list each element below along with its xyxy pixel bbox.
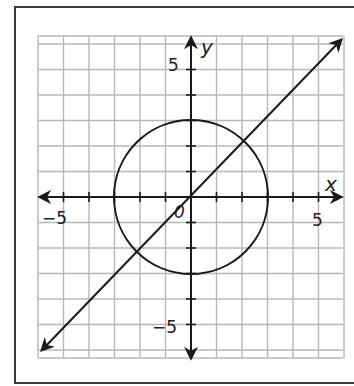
x-tick-label-pos5: 5 xyxy=(312,210,323,230)
x-axis-label: x xyxy=(324,172,337,196)
y-tick-label-pos5: 5 xyxy=(168,55,179,75)
origin-label: 0 xyxy=(174,202,185,222)
x-tick-label-neg5: −5 xyxy=(42,208,67,228)
y-axis-label: y xyxy=(200,35,214,59)
y-tick-label-neg5: −5 xyxy=(152,317,177,337)
